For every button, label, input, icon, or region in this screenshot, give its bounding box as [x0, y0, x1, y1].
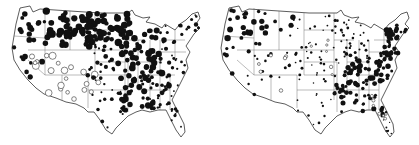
- filled-circle-symbol: [121, 33, 125, 37]
- filled-circle-symbol: [57, 28, 64, 35]
- filled-circle-symbol: [253, 93, 257, 97]
- filled-circle-symbol: [171, 95, 173, 97]
- filled-circle-symbol: [349, 47, 351, 49]
- open-circle-symbol: [259, 70, 262, 73]
- filled-circle-symbol: [183, 64, 185, 66]
- filled-circle-symbol: [119, 44, 124, 49]
- filled-circle-symbol: [355, 83, 360, 88]
- filled-circle-symbol: [348, 19, 350, 21]
- filled-circle-symbol: [150, 75, 154, 79]
- filled-circle-symbol: [367, 40, 369, 42]
- filled-circle-symbol: [340, 29, 343, 32]
- right-map-svg: [209, 0, 418, 145]
- filled-circle-symbol: [314, 25, 316, 27]
- filled-circle-symbol: [122, 108, 126, 112]
- filled-circle-symbol: [247, 75, 249, 77]
- filled-circle-symbol: [141, 96, 144, 99]
- filled-circle-symbol: [309, 42, 311, 44]
- filled-circle-symbol: [128, 50, 134, 56]
- filled-circle-symbol: [161, 48, 163, 50]
- filled-circle-symbol: [131, 35, 138, 42]
- filled-circle-symbol: [339, 95, 344, 100]
- filled-circle-symbol: [352, 65, 357, 70]
- filled-circle-symbol: [141, 82, 144, 85]
- open-circle-symbol: [329, 65, 332, 68]
- filled-circle-symbol: [194, 14, 196, 16]
- filled-circle-symbol: [259, 25, 264, 30]
- filled-circle-symbol: [26, 22, 31, 27]
- open-circle-symbol: [69, 65, 74, 70]
- filled-circle-symbol: [159, 103, 162, 106]
- filled-circle-symbol: [66, 22, 70, 26]
- filled-circle-symbol: [158, 57, 162, 61]
- filled-circle-symbol: [29, 61, 33, 65]
- open-circle-symbol: [84, 81, 89, 86]
- filled-circle-symbol: [177, 84, 179, 86]
- filled-circle-symbol: [286, 52, 288, 54]
- filled-circle-symbol: [316, 74, 318, 76]
- filled-circle-symbol: [224, 53, 229, 58]
- filled-circle-symbol: [384, 31, 389, 36]
- open-circle-symbol: [72, 97, 77, 102]
- filled-circle-symbol: [102, 31, 107, 36]
- filled-circle-symbol: [346, 39, 348, 41]
- filled-circle-symbol: [48, 30, 56, 38]
- filled-circle-symbol: [194, 29, 197, 32]
- filled-circle-symbol: [388, 42, 391, 45]
- filled-circle-symbol: [374, 60, 379, 65]
- open-circle-symbol: [48, 68, 54, 74]
- filled-circle-symbol: [385, 127, 387, 129]
- filled-circle-symbol: [363, 94, 366, 97]
- filled-circle-symbol: [334, 32, 336, 34]
- filled-circle-symbol: [367, 56, 370, 59]
- filled-circle-symbol: [342, 34, 345, 37]
- filled-circle-symbol: [239, 36, 243, 40]
- filled-circle-symbol: [43, 40, 48, 45]
- filled-circle-symbol: [175, 113, 177, 115]
- filled-circle-symbol: [247, 83, 249, 85]
- open-circle-symbol: [58, 82, 65, 89]
- open-circle-symbol: [269, 54, 272, 57]
- filled-circle-symbol: [123, 69, 127, 73]
- filled-circle-symbol: [273, 20, 277, 24]
- filled-circle-symbol: [95, 79, 97, 81]
- filled-circle-symbol: [258, 42, 262, 46]
- filled-circle-symbol: [360, 34, 362, 36]
- filled-circle-symbol: [358, 48, 360, 50]
- filled-circle-symbol: [180, 61, 183, 64]
- filled-circle-symbol: [308, 43, 310, 45]
- filled-circle-symbol: [345, 47, 348, 50]
- filled-circle-symbol: [147, 78, 149, 80]
- filled-circle-symbol: [333, 47, 335, 49]
- filled-circle-symbol: [353, 33, 355, 35]
- open-circle-symbol: [45, 90, 52, 97]
- filled-circle-symbol: [119, 51, 126, 58]
- filled-circle-symbol: [26, 37, 32, 43]
- filled-circle-symbol: [159, 69, 162, 72]
- filled-circle-symbol: [106, 126, 108, 128]
- open-circle-symbol: [89, 90, 93, 94]
- filled-circle-symbol: [96, 108, 100, 112]
- filled-circle-symbol: [164, 47, 168, 51]
- filled-circle-symbol: [58, 16, 63, 21]
- filled-circle-symbol: [379, 60, 383, 64]
- filled-circle-symbol: [90, 67, 93, 70]
- filled-circle-symbol: [256, 58, 258, 60]
- filled-circle-symbol: [323, 115, 325, 117]
- open-circle-symbol: [66, 90, 70, 94]
- filled-circle-symbol: [122, 105, 125, 108]
- filled-circle-symbol: [88, 24, 94, 30]
- open-circle-symbol: [382, 114, 384, 116]
- filled-circle-symbol: [135, 44, 142, 51]
- open-circle-symbol: [257, 63, 260, 66]
- filled-circle-symbol: [299, 18, 301, 20]
- filled-circle-symbol: [364, 67, 368, 71]
- open-circle-symbol: [96, 80, 101, 85]
- filled-circle-symbol: [172, 40, 176, 44]
- filled-circle-symbol: [126, 73, 131, 78]
- filled-circle-symbol: [99, 71, 101, 73]
- filled-circle-symbol: [340, 40, 342, 42]
- filled-circle-symbol: [261, 79, 263, 81]
- filled-circle-symbol: [39, 59, 45, 65]
- filled-circle-symbol: [140, 104, 145, 109]
